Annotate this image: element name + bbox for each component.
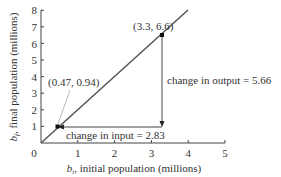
point-high-label: (3.3, 6.6) <box>133 20 174 33</box>
svg-text:8: 8 <box>32 4 38 16</box>
point-high <box>160 33 164 37</box>
svg-text:4: 4 <box>32 71 38 83</box>
svg-text:3: 3 <box>149 147 155 159</box>
svg-text:2: 2 <box>112 147 118 159</box>
chart: 1 2 3 4 5 6 7 8 0 1 2 3 4 5 bi, initial … <box>0 0 281 177</box>
svg-text:7: 7 <box>32 21 38 33</box>
svg-text:0: 0 <box>31 147 37 159</box>
svg-text:5: 5 <box>32 54 38 66</box>
x-axis-label: bi, initial population (millions) <box>67 162 202 176</box>
x-tick-labels: 0 1 2 3 4 5 <box>31 147 228 159</box>
svg-text:1: 1 <box>75 147 81 159</box>
input-change-label: change in input = 2.83 <box>66 129 165 141</box>
svg-text:1: 1 <box>32 120 38 132</box>
svg-text:5: 5 <box>222 147 228 159</box>
point-low-label: (0.47, 0.94) <box>48 76 100 89</box>
svg-text:3: 3 <box>32 87 38 99</box>
svg-text:4: 4 <box>185 147 191 159</box>
y-axis-label: bf, final population (millions) <box>7 12 21 141</box>
svg-text:2: 2 <box>32 104 38 116</box>
y-tick-labels: 1 2 3 4 5 6 7 8 <box>32 4 38 132</box>
output-change-label: change in output = 5.66 <box>167 74 272 86</box>
point-low <box>56 125 60 129</box>
arrowhead-down-icon <box>160 121 165 127</box>
svg-text:6: 6 <box>32 38 38 50</box>
